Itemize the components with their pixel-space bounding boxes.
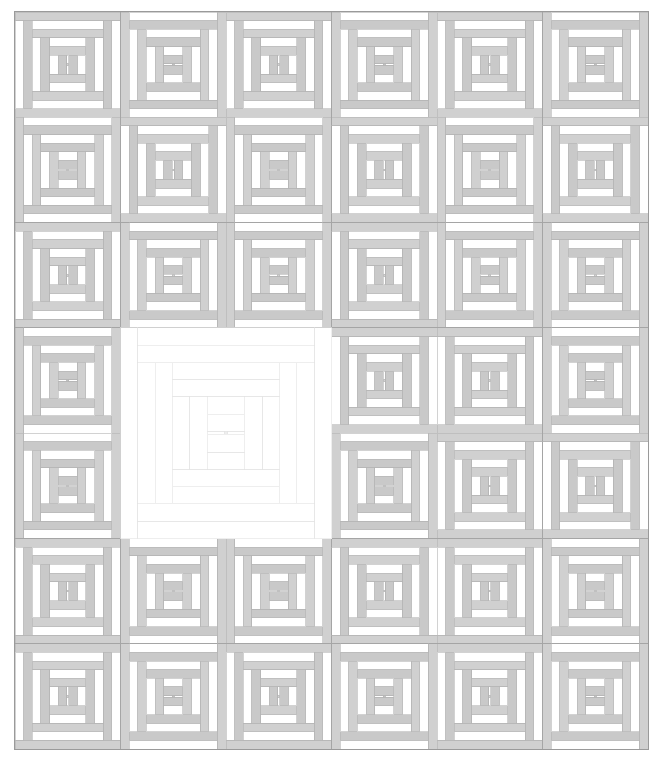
log-top [454, 345, 525, 354]
quilt-block[interactable] [15, 328, 121, 433]
log-bottom [269, 179, 288, 188]
log-bottom [472, 390, 508, 399]
quilt-block[interactable] [121, 12, 227, 117]
log-left [366, 266, 375, 285]
log-top [454, 652, 525, 661]
log-bottom [50, 285, 86, 294]
log-top [67, 266, 69, 275]
quilt-block[interactable] [226, 223, 332, 328]
quilt-block[interactable] [437, 223, 543, 328]
quilt-block[interactable] [437, 117, 543, 222]
log-bottom [41, 407, 95, 416]
log-top [340, 433, 428, 442]
quilt-block[interactable] [15, 117, 121, 222]
quilt-block[interactable] [332, 223, 438, 328]
quilt-block[interactable] [543, 644, 649, 749]
log-left [577, 476, 586, 495]
log-left [480, 169, 489, 171]
quilt-block[interactable] [543, 12, 649, 117]
log-top [58, 371, 77, 380]
log-right [191, 257, 200, 293]
log-right [209, 556, 218, 627]
quilt-block[interactable] [121, 117, 227, 222]
log-bottom [340, 732, 428, 741]
log-right [209, 661, 218, 732]
log-right [631, 240, 640, 311]
log-right [517, 670, 526, 723]
quilt-block[interactable] [15, 644, 121, 749]
quilt-diagram [0, 0, 663, 765]
log-top [207, 397, 245, 414]
log-bottom [454, 91, 525, 100]
log-bottom [551, 416, 639, 425]
quilt-block[interactable] [437, 433, 543, 538]
log-left [586, 274, 595, 276]
log-bottom [551, 740, 639, 749]
log-top [375, 678, 394, 687]
quilt-block[interactable] [543, 539, 649, 644]
log-right [323, 117, 332, 222]
quilt-block[interactable] [437, 644, 543, 749]
quilt-block[interactable] [332, 644, 438, 749]
log-bottom [41, 197, 95, 206]
log-right [217, 126, 226, 214]
log-bottom [138, 521, 314, 538]
log-bottom [269, 276, 288, 285]
quilt-block[interactable] [332, 328, 438, 433]
log-top [543, 433, 649, 442]
quilt-block[interactable] [543, 223, 649, 328]
log-top [577, 459, 613, 468]
quilt-block[interactable] [332, 539, 438, 644]
quilt-block[interactable] [15, 223, 121, 328]
quilt-block[interactable] [437, 12, 543, 117]
feature-block[interactable] [121, 328, 332, 539]
log-right [288, 573, 297, 609]
log-bottom [252, 302, 306, 311]
log-left [463, 459, 472, 512]
quilt-block[interactable] [543, 117, 649, 222]
log-left [15, 547, 24, 635]
log-right [411, 143, 420, 196]
log-right [323, 539, 332, 644]
log-right [174, 64, 183, 66]
log-top [24, 337, 112, 346]
log-top [252, 240, 306, 249]
log-right [297, 362, 314, 504]
quilt-block[interactable] [543, 433, 649, 538]
log-bottom [146, 83, 200, 92]
log-top [463, 249, 517, 258]
log-right [428, 337, 437, 425]
quilt-block[interactable] [15, 539, 121, 644]
log-right [631, 661, 640, 732]
quilt-block[interactable] [121, 644, 227, 749]
log-right [306, 38, 315, 91]
log-right [491, 274, 500, 276]
quilt-block[interactable] [226, 117, 332, 222]
log-top [138, 135, 209, 144]
quilt-block[interactable] [543, 328, 649, 433]
log-left [568, 47, 577, 83]
log-left [41, 564, 50, 617]
log-right [385, 485, 394, 487]
quilt-block[interactable] [226, 539, 332, 644]
quilt-block[interactable] [332, 12, 438, 117]
log-left [138, 29, 147, 100]
log-bottom [568, 715, 622, 724]
quilt-block[interactable] [332, 433, 438, 538]
log-bottom [437, 740, 543, 749]
quilt-block[interactable] [226, 12, 332, 117]
quilt-block[interactable] [15, 433, 121, 538]
log-right [262, 397, 279, 469]
log-top [366, 354, 402, 363]
quilt-block[interactable] [226, 644, 332, 749]
log-bottom [15, 109, 121, 118]
quilt-block[interactable] [437, 539, 543, 644]
log-bottom [543, 530, 649, 539]
quilt-block[interactable] [437, 328, 543, 433]
quilt-block[interactable] [15, 12, 121, 117]
log-bottom [24, 425, 112, 434]
quilt-block[interactable] [121, 223, 227, 328]
log-right [402, 47, 411, 83]
quilt-block[interactable] [332, 117, 438, 222]
quilt-block[interactable] [121, 539, 227, 644]
